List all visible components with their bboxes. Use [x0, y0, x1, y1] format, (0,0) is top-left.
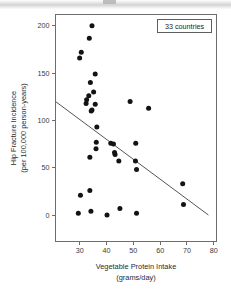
- data-point: [128, 99, 133, 104]
- data-point: [181, 202, 186, 207]
- plot-canvas: 050100150200304050607080 33 countries Ve…: [0, 9, 231, 290]
- data-point: [91, 90, 96, 95]
- data-point: [117, 206, 122, 211]
- data-point: [88, 209, 93, 214]
- y-axis-subtitle: (per 100,000 person-years): [19, 83, 28, 173]
- y-tick-label: 150: [38, 69, 50, 78]
- data-point: [93, 72, 98, 77]
- y-tick-label: 50: [42, 163, 50, 172]
- data-point: [134, 211, 139, 216]
- x-tick-label: 30: [76, 246, 84, 255]
- axis-tick-labels: 050100150200304050607080: [38, 21, 218, 255]
- data-point: [133, 141, 138, 146]
- data-point: [87, 36, 92, 41]
- band-marker: [103, 0, 116, 4]
- x-tick-label: 50: [129, 246, 137, 255]
- data-point: [133, 159, 138, 164]
- regression-fit-line: [56, 102, 209, 215]
- data-point: [94, 125, 99, 130]
- x-tick-label: 70: [183, 246, 191, 255]
- data-points: [76, 23, 186, 217]
- data-point: [105, 213, 110, 218]
- x-axis-title: Vegetable Protein Intake: [96, 262, 177, 271]
- data-point: [77, 56, 82, 61]
- y-tick-label: 100: [38, 116, 50, 125]
- data-point: [87, 188, 92, 193]
- y-axis-title: Hip Fracture Incidence: [9, 91, 18, 165]
- annotation-label: 33 countries: [165, 22, 205, 31]
- x-tick-label: 80: [210, 246, 218, 255]
- data-point: [76, 211, 81, 216]
- data-point: [180, 181, 185, 186]
- data-point: [84, 101, 89, 106]
- data-point: [87, 155, 92, 160]
- y-tick-label: 200: [38, 21, 50, 30]
- data-point: [116, 159, 121, 164]
- data-point: [111, 142, 116, 147]
- x-axis-subtitle: (grams/day): [116, 273, 155, 282]
- legend-annotation-box: 33 countries: [158, 20, 212, 33]
- data-point: [113, 152, 118, 157]
- data-point: [79, 50, 84, 55]
- data-point: [89, 23, 94, 28]
- data-point: [94, 146, 99, 151]
- data-point: [134, 167, 139, 172]
- data-point: [93, 102, 98, 107]
- scatter-plot-figure: 050100150200304050607080 33 countries Ve…: [0, 9, 231, 290]
- plot-frame: [56, 15, 217, 242]
- regression-line: [56, 102, 209, 215]
- data-point: [94, 140, 99, 145]
- data-point: [88, 80, 93, 85]
- plot-axes: [56, 15, 217, 242]
- x-tick-label: 60: [156, 246, 164, 255]
- y-tick-label: 0: [46, 211, 50, 220]
- data-point: [78, 193, 83, 198]
- data-point: [89, 108, 94, 113]
- data-point: [146, 106, 151, 111]
- x-tick-label: 40: [102, 246, 110, 255]
- window-top-band: [0, 0, 231, 9]
